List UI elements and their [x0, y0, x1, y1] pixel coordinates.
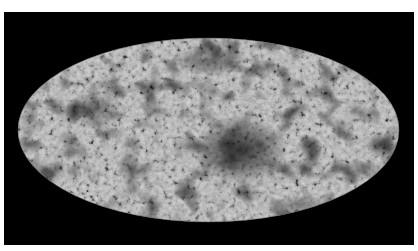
- sky-map: [0, 0, 418, 251]
- cold-region: [192, 116, 288, 184]
